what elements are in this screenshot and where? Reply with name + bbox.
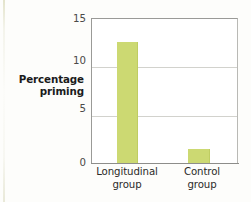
x-axis-labels: Longitudinal group Control group: [91, 166, 239, 200]
y-axis-title: Percentage priming: [6, 73, 84, 98]
gridline-5: [92, 116, 237, 117]
scan-edge-artifact: [3, 0, 5, 202]
x-label-control-group: Control group: [169, 166, 235, 191]
x-label-longitudinal-line-1: Longitudinal: [91, 166, 163, 179]
y-tick-label-5: 5: [62, 104, 86, 114]
y-axis-title-line-2: priming: [6, 85, 84, 97]
plot-area: [91, 18, 238, 163]
x-axis-line: [91, 163, 239, 164]
gridline-10: [92, 67, 237, 68]
x-label-longitudinal-line-2: group: [91, 179, 163, 192]
y-tick-label-0: 0: [62, 158, 86, 168]
bar-chart-figure: Percentage priming 15 10 5 0 Longitudina…: [0, 0, 251, 202]
y-tick-label-10: 10: [62, 56, 86, 66]
bar-longitudinal-group: [117, 42, 138, 163]
x-label-longitudinal-group: Longitudinal group: [91, 166, 163, 191]
y-axis-title-line-1: Percentage: [6, 73, 84, 85]
y-tick-label-15: 15: [62, 14, 86, 24]
x-label-control-line-1: Control: [169, 166, 235, 179]
bar-control-group: [188, 149, 210, 164]
x-label-control-line-2: group: [169, 179, 235, 192]
